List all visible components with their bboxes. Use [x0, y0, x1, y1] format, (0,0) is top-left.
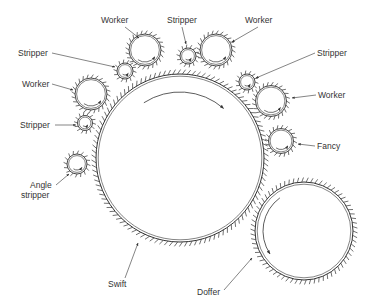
leader-arrow-icon	[256, 53, 315, 78]
label-worker-top-right: Worker	[245, 15, 272, 25]
leader-arrow-icon	[292, 95, 316, 98]
angle-stripper-roller	[64, 151, 91, 178]
worker-left-roller	[72, 75, 111, 114]
stripper-right-roller	[236, 71, 259, 94]
leader-arrow-icon	[125, 243, 138, 278]
label-worker-right: Worker	[318, 90, 345, 100]
label-stripper-left: Stripper	[20, 120, 50, 130]
worker-right-roller	[252, 82, 290, 120]
leader-arrow-icon	[298, 144, 315, 146]
leader-arrow-icon	[52, 84, 73, 90]
swift-roller	[92, 70, 269, 247]
stripper-left-roller	[74, 112, 96, 134]
stripper-top-roller	[177, 45, 200, 68]
label-worker-left: Worker	[22, 79, 49, 89]
rollers-layer	[64, 31, 358, 285]
doffer-roller	[251, 178, 358, 285]
fancy-roller	[265, 125, 297, 157]
diagram-canvas: WorkerStripperWorkerStripperWorkerStripp…	[0, 0, 375, 303]
worker-top-right-roller	[197, 31, 236, 70]
label-angle-stripper-2: stripper	[21, 190, 50, 200]
label-swift: Swift	[108, 279, 127, 289]
leader-arrow-icon	[224, 258, 252, 290]
leader-arrow-icon	[56, 174, 69, 185]
label-angle-stripper-1: Angle	[30, 180, 52, 190]
carding-diagram: WorkerStripperWorkerStripperWorkerStripp…	[0, 0, 375, 303]
label-doffer: Doffer	[197, 287, 220, 297]
leader-arrow-icon	[182, 27, 186, 44]
label-fancy: Fancy	[317, 141, 341, 151]
label-stripper-right: Stripper	[317, 48, 347, 58]
stripper-upper-left-roller	[114, 60, 137, 83]
label-worker-top-left: Worker	[101, 15, 128, 25]
leader-arrow-icon	[232, 27, 258, 42]
label-stripper-top: Stripper	[167, 15, 197, 25]
label-stripper-upper-left: Stripper	[18, 48, 48, 58]
leader-arrow-icon	[125, 27, 139, 38]
leader-arrow-icon	[52, 53, 115, 67]
